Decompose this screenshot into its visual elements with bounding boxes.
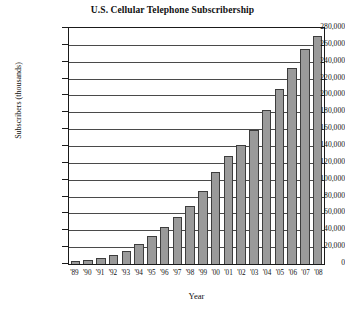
- bar: [160, 227, 170, 264]
- bar-slot: [158, 28, 171, 264]
- bar: [71, 261, 81, 264]
- x-axis-tick-label: '99: [196, 267, 209, 279]
- y-axis-tick-label: 20,000: [281, 242, 345, 250]
- y-axis-tick-label: 140,000: [281, 141, 345, 149]
- x-axis-tick-label: '92: [107, 267, 120, 279]
- bar-slot: [107, 28, 120, 264]
- y-axis-tick-label: 80,000: [281, 192, 345, 200]
- bar-slot: [146, 28, 159, 264]
- y-axis-label: Subscribers (thousands): [14, 31, 23, 171]
- y-axis-tick-label: 100,000: [281, 175, 345, 183]
- y-axis-tick-label: 240,000: [281, 57, 345, 65]
- y-axis-tick-mark: [62, 263, 68, 264]
- y-axis-tick-label: 40,000: [281, 225, 345, 233]
- bar-slot: [133, 28, 146, 264]
- y-axis-tick-mark: [62, 229, 68, 230]
- x-axis-tick-label: '97: [171, 267, 184, 279]
- x-axis-tick-label: '98: [184, 267, 197, 279]
- bar: [262, 110, 272, 264]
- y-axis-tick-mark: [62, 145, 68, 146]
- x-axis-tick-label: '07: [299, 267, 312, 279]
- bar: [198, 191, 208, 264]
- x-axis-tick-labels: '89'90'91'92'93'94'95'96'97'98'99'00'01'…: [68, 267, 325, 279]
- x-axis-tick-label: '94: [132, 267, 145, 279]
- x-axis-tick-label: '00: [209, 267, 222, 279]
- y-axis-tick-label: 60,000: [281, 208, 345, 216]
- bar: [173, 217, 183, 264]
- y-axis-tick-mark: [62, 196, 68, 197]
- x-axis-tick-label: '01: [222, 267, 235, 279]
- y-axis-tick-mark: [62, 61, 68, 62]
- y-axis-tick-label: 260,000: [281, 40, 345, 48]
- bar: [147, 236, 157, 264]
- y-axis-tick-label: 160,000: [281, 124, 345, 132]
- chart-container: U.S. Cellular Telephone Subscribership S…: [0, 0, 345, 318]
- bar: [211, 172, 221, 264]
- bar: [96, 258, 106, 264]
- y-axis-tick-label: 180,000: [281, 107, 345, 115]
- x-axis-tick-label: '06: [286, 267, 299, 279]
- bar-slot: [235, 28, 248, 264]
- x-axis-tick-label: '08: [312, 267, 325, 279]
- bar-slot: [82, 28, 95, 264]
- bar-slot: [260, 28, 273, 264]
- bar-slot: [171, 28, 184, 264]
- y-axis-tick-mark: [62, 78, 68, 79]
- bar-slot: [120, 28, 133, 264]
- bar: [122, 251, 132, 264]
- x-axis-tick-label: '89: [68, 267, 81, 279]
- bar-slot: [209, 28, 222, 264]
- bar: [249, 130, 259, 264]
- bar-slot: [248, 28, 261, 264]
- bar: [83, 260, 93, 264]
- y-axis-tick-mark: [62, 212, 68, 213]
- x-axis-tick-label: '93: [119, 267, 132, 279]
- x-axis-tick-label: '90: [81, 267, 94, 279]
- y-axis-tick-label: 220,000: [281, 74, 345, 82]
- y-axis-tick-label: 0: [281, 259, 345, 267]
- bar-slot: [222, 28, 235, 264]
- x-axis-tick-label: '03: [248, 267, 261, 279]
- bar: [185, 206, 195, 264]
- y-axis-tick-mark: [62, 94, 68, 95]
- x-axis-tick-label: '04: [261, 267, 274, 279]
- x-axis-label: Year: [68, 291, 325, 301]
- bar: [134, 244, 144, 264]
- x-axis-tick-label: '95: [145, 267, 158, 279]
- bar-slot: [95, 28, 108, 264]
- bar: [109, 255, 119, 264]
- chart-title: U.S. Cellular Telephone Subscribership: [0, 5, 345, 15]
- bar-slot: [197, 28, 210, 264]
- x-axis-tick-label: '02: [235, 267, 248, 279]
- y-axis-tick-mark: [62, 27, 68, 28]
- bar: [236, 145, 246, 264]
- y-axis-tick-mark: [62, 128, 68, 129]
- x-axis-tick-label: '91: [94, 267, 107, 279]
- x-axis-tick-label: '96: [158, 267, 171, 279]
- bar-slot: [184, 28, 197, 264]
- y-axis-tick-label: 200,000: [281, 90, 345, 98]
- bar-slot: [69, 28, 82, 264]
- y-axis-tick-mark: [62, 162, 68, 163]
- y-axis-tick-mark: [62, 111, 68, 112]
- bar: [224, 156, 234, 264]
- y-axis-tick-mark: [62, 246, 68, 247]
- y-axis-tick-label: 120,000: [281, 158, 345, 166]
- y-axis-tick-mark: [62, 44, 68, 45]
- y-axis-tick-label: 280,000: [281, 23, 345, 31]
- x-axis-tick-label: '05: [274, 267, 287, 279]
- y-axis-tick-mark: [62, 179, 68, 180]
